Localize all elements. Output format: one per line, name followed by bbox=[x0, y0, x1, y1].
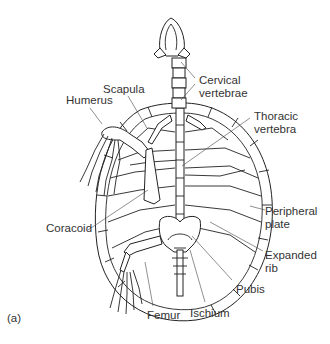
label-femur: Femur bbox=[147, 309, 180, 322]
label-coracoid: Coracoid bbox=[46, 222, 92, 235]
label-pubis: Pubis bbox=[236, 283, 265, 296]
label-ischium: Ischium bbox=[190, 307, 230, 320]
label-peripheral-plate: Peripheral plate bbox=[265, 205, 317, 230]
label-expanded-rib: Expanded rib bbox=[265, 249, 317, 274]
label-thoracic-vertebra: Thoracic vertebra bbox=[254, 110, 298, 135]
label-cervical-vertebrae: Cervical vertebrae bbox=[199, 74, 248, 99]
label-humerus: Humerus bbox=[66, 94, 113, 107]
panel-label: (a) bbox=[7, 312, 21, 325]
turtle-skeleton-figure: Cervical vertebrae Thoracic vertebra Sca… bbox=[0, 0, 330, 344]
skeleton-drawing bbox=[0, 0, 330, 344]
